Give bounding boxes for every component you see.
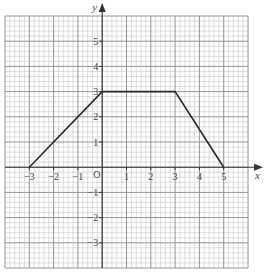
y-tick-label: 5 <box>93 36 98 47</box>
x-tick-label: −1 <box>73 171 84 182</box>
x-axis-label: x <box>254 169 260 181</box>
x-tick-label: −3 <box>24 171 35 182</box>
y-tick-label: 1 <box>93 137 98 148</box>
x-tick-label: 5 <box>221 171 226 182</box>
y-tick-label: −2 <box>88 212 99 223</box>
y-tick-label: −1 <box>88 187 99 198</box>
x-tick-label: −2 <box>48 171 59 182</box>
y-tick-label: −3 <box>88 237 99 248</box>
x-tick-label: 3 <box>173 171 178 182</box>
y-axis-label: y <box>91 1 97 13</box>
origin-label: O <box>93 169 100 180</box>
x-tick-label: 1 <box>124 171 129 182</box>
x-tick-label: 2 <box>148 171 153 182</box>
y-axis-arrow-icon <box>99 3 106 12</box>
y-tick-label: 4 <box>93 61 98 72</box>
x-tick-label: 4 <box>197 171 202 182</box>
coordinate-graph: −3−2−112345−3−2−112345 x y O <box>0 0 264 272</box>
major-grid <box>5 16 248 268</box>
y-tick-label: 2 <box>93 111 98 122</box>
